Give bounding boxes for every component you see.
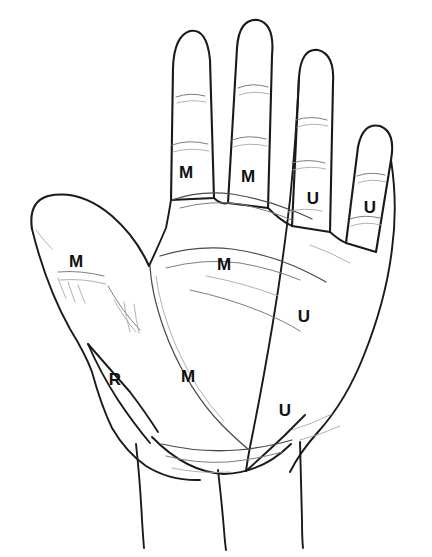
thenar-life-line-inner (156, 276, 224, 421)
hand-drawing-svg (0, 0, 432, 557)
mid-palm-oblique-crease (190, 290, 300, 331)
nerve-label-thumb-m: M (69, 253, 83, 270)
nerve-label-index-m: M (179, 164, 193, 181)
thumb-radial-striae-3 (78, 285, 85, 303)
forearm-radial-edge (136, 444, 144, 548)
mid-palm-oblique-crease-2 (206, 276, 278, 296)
nerve-label-palm-upper-m: M (217, 256, 231, 273)
nerve-label-radial-r: R (109, 371, 121, 388)
thenar-radial-crease-2 (114, 300, 136, 332)
hand-nerve-territory-figure: M M M U U M M U U R (0, 0, 432, 557)
nerve-label-ring-u: U (307, 190, 319, 207)
thumb-radial-striae-1 (58, 278, 66, 298)
proximal-transverse-crease (160, 248, 326, 282)
thenar-radial-crease (108, 286, 140, 330)
nerve-label-palm-lower-m: M (181, 368, 195, 385)
forearm-mid-edge (218, 470, 226, 550)
nerve-label-little-u: U (364, 199, 376, 216)
wrist-crease-upper (162, 440, 292, 451)
thumb-radial-striae-2 (68, 282, 75, 302)
little-finger-outline (346, 125, 392, 252)
thumb-ip-crease-2 (60, 280, 106, 285)
hypothenar-crease-3 (300, 426, 340, 440)
thumb-ip-crease (58, 272, 104, 277)
thenar-life-line (150, 266, 248, 449)
distal-palmar-crease-secondary (180, 203, 292, 220)
web-space-ring-little (330, 232, 346, 243)
hypothenar-crease-1 (310, 245, 350, 263)
nerve-label-hypothenar-u-lower: U (279, 402, 291, 419)
thumb-outline (31, 195, 149, 266)
radial-territory-boundary (88, 344, 158, 432)
hand-outline-group (31, 20, 394, 550)
forearm-ulnar-edge (300, 442, 303, 548)
nerve-label-hypothenar-u-upper: U (298, 308, 310, 325)
first-web-striae-2 (134, 304, 139, 333)
nerve-label-middle-m: M (241, 168, 255, 185)
radial-territory-distal-edge (88, 344, 150, 443)
